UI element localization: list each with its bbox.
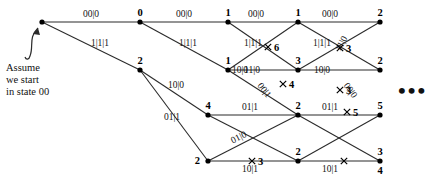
node-metric-label: 4 xyxy=(205,100,211,111)
trellis-node xyxy=(225,19,230,24)
edge-label: 10|1 xyxy=(322,164,338,174)
node-metric-label: 0 xyxy=(137,7,142,18)
trellis-node xyxy=(225,67,230,72)
node-metric-label: 1 xyxy=(295,7,300,18)
assume-note-line2: we start xyxy=(6,74,39,86)
node-metric-label: 2 xyxy=(195,155,200,166)
discarded-path-metric: 3 xyxy=(346,85,351,96)
continuation-ellipsis: ••• xyxy=(398,80,427,102)
trellis-node xyxy=(137,67,142,72)
edge-label: 1|1|1 xyxy=(244,38,262,48)
trellis-node xyxy=(295,158,300,163)
trellis-node xyxy=(137,19,142,24)
discarded-path-metric: 3 xyxy=(346,43,351,54)
trellis-node xyxy=(377,19,382,24)
edge-label: 10|0 xyxy=(168,80,184,90)
discarded-path-metric: 3 xyxy=(258,156,263,167)
assume-note-line1: Assume xyxy=(6,62,40,74)
edge-label: 01|1 xyxy=(322,102,338,112)
trellis-node xyxy=(295,67,300,72)
edge-label: 10|1 xyxy=(242,164,258,174)
edge-label: 00|0 xyxy=(83,9,99,19)
start-state-arrow xyxy=(25,28,40,59)
node-metric-label: 3 xyxy=(295,55,300,66)
assume-note-line3: in state 00 xyxy=(6,86,49,98)
node-metric-label: 1 xyxy=(225,55,230,66)
trellis-node xyxy=(295,19,300,24)
node-metric-label: 1 xyxy=(225,7,230,18)
edge-label: 1|1|1 xyxy=(313,38,331,48)
trellis-node xyxy=(377,112,382,117)
edge-label: 10|0 xyxy=(232,65,248,75)
trellis-edge xyxy=(140,70,208,115)
trellis-node xyxy=(377,158,382,163)
trellis-node xyxy=(205,112,210,117)
trellis-node xyxy=(377,67,382,72)
discarded-path-metric: 5 xyxy=(353,107,358,118)
edge-label: 01|1 xyxy=(164,112,180,122)
trellis-node xyxy=(205,158,210,163)
edge-label: 00|0 xyxy=(322,9,338,19)
trellis-node xyxy=(295,112,300,117)
discarded-path-metric: 6 xyxy=(274,42,279,53)
node-metric-label: 3 xyxy=(377,146,382,157)
edge-label: 01|1 xyxy=(242,102,258,112)
node-metric-label: 4 xyxy=(377,165,383,176)
discarded-path-metric: 4 xyxy=(289,79,295,90)
edge-label: 1|1|1 xyxy=(91,38,109,48)
discarded-branch-x-icon xyxy=(344,109,350,115)
edge-label: 00|0 xyxy=(176,9,192,19)
trellis-svg: 00|01|1|100|01|1|110|001|100|01|1|111|00… xyxy=(0,0,431,184)
edge-label: 00|0 xyxy=(248,9,264,19)
node-metric-label: 2 xyxy=(377,55,382,66)
trellis-node xyxy=(39,19,44,24)
node-metric-label: 2 xyxy=(137,55,142,66)
node-metric-label: 2 xyxy=(295,146,300,157)
edge-label: 01|0 xyxy=(229,129,248,145)
trellis-diagram-figure: 00|01|1|100|01|1|110|001|100|01|1|111|00… xyxy=(0,0,431,184)
edge-label: 10|0 xyxy=(314,65,330,75)
discarded-branch-x-icon xyxy=(280,81,286,87)
discarded-branch-x-icon xyxy=(337,87,343,93)
edge-label: 1|1|1 xyxy=(179,38,197,48)
node-metric-label: 2 xyxy=(295,100,300,111)
node-metric-label: 2 xyxy=(377,7,382,18)
kill-markers-layer: 643353 xyxy=(249,42,358,167)
node-metric-label: 5 xyxy=(377,100,382,111)
